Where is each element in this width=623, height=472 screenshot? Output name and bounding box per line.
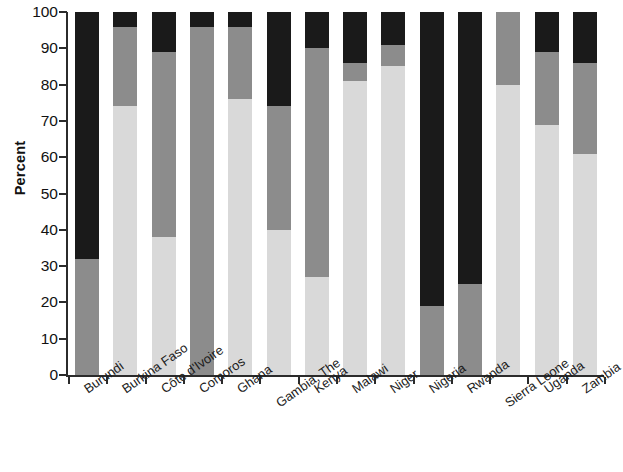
y-axis-tick (59, 193, 67, 195)
bar[interactable] (458, 12, 482, 375)
bar-segment-light[interactable] (535, 125, 559, 375)
bar-segment-medium[interactable] (343, 63, 367, 81)
y-tick-label: 80 (18, 77, 58, 93)
x-axis-tick (374, 377, 376, 384)
bar[interactable] (573, 12, 597, 375)
y-axis-tick-labels: 0102030405060708090100 (14, 0, 58, 472)
x-axis-tick (604, 377, 606, 384)
bar-segment-medium[interactable] (75, 259, 99, 375)
x-axis-tick (298, 377, 300, 384)
bar-segment-black[interactable] (75, 12, 99, 259)
y-tick-label: 50 (18, 186, 58, 202)
bar-segment-black[interactable] (573, 12, 597, 63)
bar-segment-black[interactable] (190, 12, 214, 27)
bar-segment-black[interactable] (458, 12, 482, 284)
bar-segment-medium[interactable] (535, 52, 559, 125)
y-axis-tick (59, 265, 67, 267)
y-axis-tick (59, 374, 67, 376)
bar[interactable] (343, 12, 367, 375)
bar-segment-black[interactable] (267, 12, 291, 106)
x-axis-tick (336, 377, 338, 384)
x-axis-tick (259, 377, 261, 384)
bar-segment-medium[interactable] (228, 27, 252, 100)
y-tick-label: 90 (18, 40, 58, 56)
y-tick-label: 10 (18, 331, 58, 347)
y-axis-tick (59, 229, 67, 231)
x-axis-tick (68, 377, 70, 384)
x-axis-tick (527, 377, 529, 384)
y-axis-tick (59, 11, 67, 13)
x-axis-tick (183, 377, 185, 384)
y-tick-label: 70 (18, 113, 58, 129)
bar[interactable] (190, 12, 214, 375)
bar[interactable] (381, 12, 405, 375)
x-axis-tick (106, 377, 108, 384)
bar-segment-light[interactable] (573, 154, 597, 375)
y-tick-label: 40 (18, 222, 58, 238)
bar[interactable] (420, 12, 444, 375)
bar-segment-medium[interactable] (573, 63, 597, 154)
bar-segment-black[interactable] (420, 12, 444, 306)
bar-segment-light[interactable] (267, 230, 291, 375)
bar-segment-medium[interactable] (190, 27, 214, 375)
y-tick-label: 30 (18, 258, 58, 274)
bar-segment-medium[interactable] (496, 12, 520, 85)
bar-segment-black[interactable] (305, 12, 329, 48)
y-tick-label: 100 (18, 4, 58, 20)
bar-segment-medium[interactable] (152, 52, 176, 237)
bar-segment-medium[interactable] (267, 106, 291, 229)
bar-segment-light[interactable] (496, 85, 520, 375)
bar-segment-light[interactable] (228, 99, 252, 375)
plot-area (68, 12, 604, 375)
bar[interactable] (113, 12, 137, 375)
bar-segment-light[interactable] (381, 66, 405, 375)
x-axis-tick (451, 377, 453, 384)
y-tick-label: 0 (18, 367, 58, 383)
bar-segment-black[interactable] (228, 12, 252, 27)
bar[interactable] (535, 12, 559, 375)
x-axis-tick (489, 377, 491, 384)
bar-segment-medium[interactable] (420, 306, 444, 375)
bar[interactable] (75, 12, 99, 375)
bar-segment-black[interactable] (343, 12, 367, 63)
x-axis-tick (566, 377, 568, 384)
bar[interactable] (496, 12, 520, 375)
bar[interactable] (152, 12, 176, 375)
x-axis-tick (413, 377, 415, 384)
bar[interactable] (305, 12, 329, 375)
y-axis-tick (59, 301, 67, 303)
bar-segment-black[interactable] (113, 12, 137, 27)
bar-segment-medium[interactable] (305, 48, 329, 277)
bar-segment-medium[interactable] (381, 45, 405, 67)
x-axis-tick (145, 377, 147, 384)
x-axis-tick (221, 377, 223, 384)
bar-segment-black[interactable] (152, 12, 176, 52)
y-axis-tick (59, 338, 67, 340)
bar-segment-light[interactable] (113, 106, 137, 375)
bar-segment-medium[interactable] (113, 27, 137, 107)
bar[interactable] (267, 12, 291, 375)
bar-segment-black[interactable] (381, 12, 405, 45)
bar-segment-medium[interactable] (458, 284, 482, 375)
y-tick-label: 20 (18, 294, 58, 310)
bar-segment-black[interactable] (535, 12, 559, 52)
bar[interactable] (228, 12, 252, 375)
bar-segment-light[interactable] (343, 81, 367, 375)
y-axis-tick (59, 156, 67, 158)
y-tick-label: 60 (18, 149, 58, 165)
y-axis-tick (59, 47, 67, 49)
y-axis-tick (59, 84, 67, 86)
y-axis-tick (59, 120, 67, 122)
